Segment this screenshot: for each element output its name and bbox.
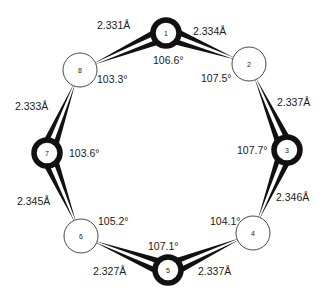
bond-angle-label: 106.6° [153, 54, 183, 66]
bond-highlight [181, 237, 242, 266]
ring-structure-diagram: 12345678 2.331Å2.334Å2.337Å2.346Å2.337Å2… [0, 0, 334, 300]
bond-length-label: 2.327Å [93, 265, 126, 277]
atom-number: 2 [247, 61, 251, 68]
bond-length-label: 2.337Å [198, 265, 231, 277]
bond-angle-label: 103.3° [97, 73, 127, 85]
atom-6: 6 [64, 219, 98, 253]
bond-length-label: 2.337Å [277, 96, 310, 108]
bond-highlight [91, 37, 153, 66]
bond-highlight [50, 81, 75, 140]
atom-number: 5 [166, 267, 170, 274]
bond-angle-label: 107.7° [237, 144, 267, 156]
bond-angle-label: 104.1° [210, 215, 240, 227]
bond-length-label: 2.346Å [276, 191, 309, 203]
atom-2: 2 [232, 47, 266, 81]
bond-angle-label: 105.2° [98, 215, 128, 227]
bond-length-label: 2.334Å [193, 25, 226, 37]
bond-angle-label: 103.6° [69, 147, 99, 159]
atom-1: 1 [153, 20, 179, 46]
atom-number: 3 [285, 147, 289, 154]
atom-7: 7 [34, 140, 60, 166]
bond-angle-label: 107.1° [148, 240, 178, 252]
bond-highlight [51, 166, 77, 225]
atom-4: 4 [236, 216, 270, 250]
bond-highlight [179, 36, 237, 60]
atom-number: 1 [164, 30, 168, 37]
atom-8: 8 [63, 53, 97, 87]
atom-5: 5 [155, 257, 181, 283]
atom-3: 3 [274, 137, 300, 163]
atom-number: 8 [78, 67, 82, 74]
atom-number: 4 [251, 230, 255, 237]
bond-angle-label: 107.5° [201, 72, 231, 84]
atom-number: 6 [79, 233, 83, 240]
atom-number: 7 [45, 150, 49, 157]
bond-highlight [92, 240, 155, 267]
bond-length-label: 2.331Å [97, 19, 130, 31]
bond-length-label: 2.345Å [17, 195, 50, 207]
bond-length-label: 2.333Å [15, 100, 48, 112]
